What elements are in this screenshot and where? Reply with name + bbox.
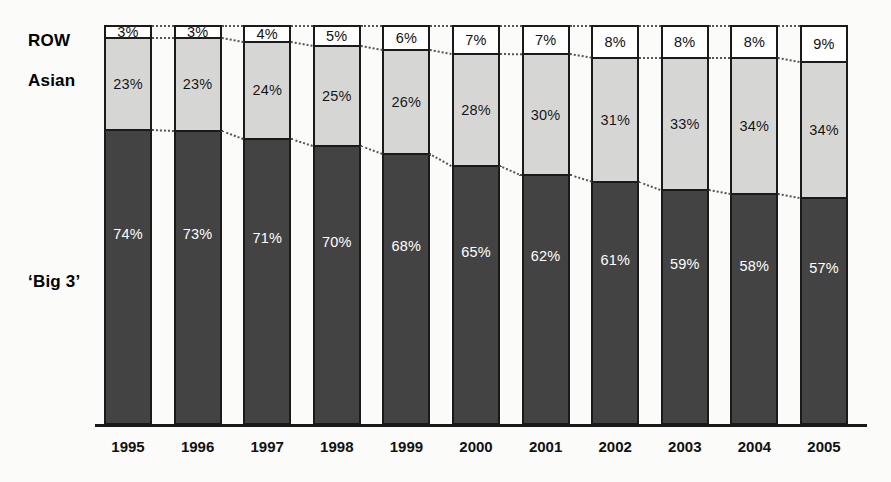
segment-row-2003: 8% (661, 25, 709, 57)
segment-asian-1996: 23% (174, 37, 222, 130)
bar-2005: 9%34%57% (800, 25, 848, 425)
segment-value-label: 3% (117, 25, 138, 40)
segment-value-label: 73% (183, 227, 213, 242)
connector-top-5 (500, 25, 522, 27)
segment-asian-1999: 26% (382, 49, 430, 153)
segment-value-label: 4% (257, 27, 278, 42)
connector-row-asian-1 (221, 37, 243, 43)
segment-value-label: 31% (600, 113, 630, 128)
segment-value-label: 9% (813, 37, 834, 52)
connector-top-1 (222, 25, 244, 27)
segment-row-1996: 3% (174, 25, 222, 37)
connector-top-3 (361, 25, 383, 27)
segment-value-label: 70% (322, 235, 352, 250)
segment-asian-2004: 34% (730, 57, 778, 193)
segment-row-1997: 4% (243, 25, 291, 41)
connector-top-4 (430, 25, 452, 27)
connector-asian-big3-4 (429, 153, 452, 167)
segment-big3-1997: 71% (243, 138, 291, 425)
connector-asian-big3-5 (499, 165, 521, 176)
segment-value-label: 24% (252, 83, 282, 98)
series-label-asian: Asian (28, 71, 75, 91)
segment-row-2005: 9% (800, 25, 848, 61)
x-tick-1998: 1998 (313, 438, 361, 455)
segment-value-label: 23% (113, 77, 143, 92)
segment-value-label: 8% (744, 35, 765, 50)
segment-value-label: 34% (809, 123, 839, 138)
connector-row-asian-3 (360, 45, 382, 51)
segment-big3-1999: 68% (382, 153, 430, 425)
bar-2001: 7%30%62% (522, 25, 570, 425)
x-tick-2005: 2005 (800, 438, 848, 455)
segment-row-1998: 5% (313, 25, 361, 45)
segment-big3-2003: 59% (661, 189, 709, 425)
segment-value-label: 61% (600, 253, 630, 268)
segment-asian-1998: 25% (313, 45, 361, 145)
segment-big3-2005: 57% (800, 197, 848, 425)
connector-asian-big3-6 (569, 174, 591, 182)
segment-value-label: 8% (674, 35, 695, 50)
segment-value-label: 57% (809, 261, 839, 276)
x-tick-1997: 1997 (243, 438, 291, 455)
segment-big3-2000: 65% (452, 165, 500, 425)
segment-value-label: 34% (740, 119, 770, 134)
segment-value-label: 3% (187, 25, 208, 40)
segment-asian-2005: 34% (800, 61, 848, 197)
connector-row-asian-4 (430, 49, 452, 55)
x-tick-2000: 2000 (452, 438, 500, 455)
segment-asian-2001: 30% (522, 53, 570, 174)
connector-row-asian-7 (639, 57, 661, 59)
connector-row-asian-0 (152, 37, 174, 39)
connector-asian-big3-3 (360, 145, 382, 155)
segment-row-2002: 8% (591, 25, 639, 57)
segment-big3-2002: 61% (591, 181, 639, 425)
segment-value-label: 6% (396, 31, 417, 46)
connector-top-9 (778, 25, 800, 27)
segment-value-label: 58% (740, 259, 770, 274)
segment-row-2004: 8% (730, 25, 778, 57)
segment-big3-1996: 73% (174, 130, 222, 425)
bar-2002: 8%31%61% (591, 25, 639, 425)
connector-asian-big3-1 (221, 130, 243, 140)
bar-2000: 7%28%65% (452, 25, 500, 425)
connector-asian-big3-2 (291, 138, 313, 147)
segment-value-label: 71% (252, 231, 282, 246)
segment-asian-2000: 28% (452, 53, 500, 165)
plot-area: 3%23%74%3%23%73%4%24%71%5%25%70%6%26%68%… (95, 0, 870, 430)
chart-page: ROW Asian ‘Big 3’ 3%23%74%3%23%73%4%24%7… (0, 0, 891, 482)
connector-top-7 (639, 25, 661, 27)
connector-row-asian-2 (291, 41, 313, 47)
x-tick-1999: 1999 (382, 438, 430, 455)
connector-asian-big3-9 (778, 193, 800, 199)
segment-row-2000: 7% (452, 25, 500, 53)
connector-row-asian-8 (709, 57, 731, 59)
connector-top-2 (291, 25, 313, 27)
bar-1998: 5%25%70% (313, 25, 361, 425)
connector-top-6 (570, 25, 592, 27)
segment-value-label: 30% (531, 108, 561, 123)
bar-1997: 4%24%71% (243, 25, 291, 425)
connector-asian-big3-8 (708, 189, 730, 195)
segment-value-label: 33% (670, 117, 700, 132)
segment-value-label: 62% (531, 249, 561, 264)
bar-1999: 6%26%68% (382, 25, 430, 425)
segment-value-label: 26% (392, 95, 422, 110)
x-axis-line (95, 424, 867, 427)
bar-2004: 8%34%58% (730, 25, 778, 425)
segment-big3-2001: 62% (522, 174, 570, 425)
segment-value-label: 7% (535, 33, 556, 48)
connector-top-0 (152, 25, 174, 27)
segment-value-label: 23% (183, 77, 213, 92)
segment-asian-2002: 31% (591, 57, 639, 181)
segment-row-1999: 6% (382, 25, 430, 49)
bar-2003: 8%33%59% (661, 25, 709, 425)
segment-value-label: 68% (392, 239, 422, 254)
series-label-big3: ‘Big 3’ (28, 272, 80, 292)
segment-value-label: 25% (322, 89, 352, 104)
connector-row-asian-6 (569, 53, 591, 59)
x-tick-1995: 1995 (104, 438, 152, 455)
segment-asian-1997: 24% (243, 41, 291, 138)
connector-row-asian-5 (500, 53, 522, 55)
segment-value-label: 5% (326, 29, 347, 44)
x-tick-2002: 2002 (591, 438, 639, 455)
